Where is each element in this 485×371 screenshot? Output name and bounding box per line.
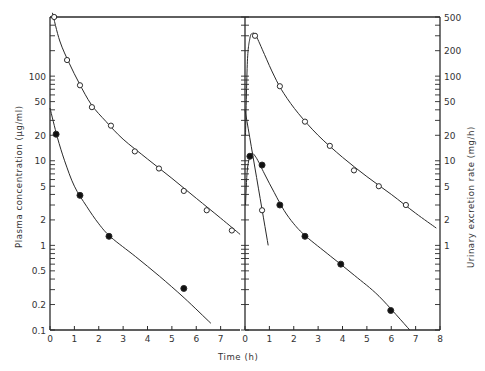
left-open-circles-point — [132, 149, 137, 154]
right-open-circles-point — [376, 184, 381, 189]
right-filled-circles-point — [302, 233, 308, 239]
left-open-circles-point — [77, 83, 82, 88]
left-open-circles-point — [64, 57, 69, 62]
right-open-circles-point — [327, 143, 332, 148]
left-filled-circles-fit-curve — [50, 108, 211, 323]
right-filled-circles-point — [277, 202, 283, 208]
right-y-tick-label: 20 — [444, 131, 456, 141]
right-y-tick-label: 1 — [444, 241, 450, 251]
left-filled-circles-point — [77, 192, 83, 198]
right-y-tick-label: 5 — [444, 182, 450, 192]
right-y-axis-title: Urinary excretion rate (mg/h) — [466, 126, 476, 268]
right-y-tick-label: 10 — [444, 156, 456, 166]
left-filled-circles-point — [181, 285, 187, 291]
left-y-tick-label: 0.1 — [32, 326, 46, 336]
left-filled-circles-point — [106, 233, 112, 239]
left-x-tick-label: 5 — [169, 334, 175, 344]
right-open-circles-point — [277, 84, 282, 89]
left-x-tick-label: 0 — [47, 334, 53, 344]
left-x-tick-label: 6 — [193, 334, 199, 344]
right-y-tick-label: 500 — [444, 13, 461, 23]
right-y-tick-label: 200 — [444, 46, 461, 56]
left-x-tick-label: 2 — [96, 334, 102, 344]
left-filled-circles-point — [53, 131, 59, 137]
left-x-tick-label: 1 — [72, 334, 78, 344]
left-y-tick-label: 5 — [40, 182, 46, 192]
right-open-small-point — [259, 208, 264, 213]
left-y-tick-label: 100 — [29, 72, 46, 82]
left-y-tick-label: 0.5 — [32, 266, 46, 276]
left-open-circles-point — [229, 228, 234, 233]
right-x-tick-label: 1 — [267, 334, 273, 344]
left-y-tick-label: 0.2 — [32, 300, 46, 310]
right-x-tick-label: 0 — [242, 334, 248, 344]
right-filled-circles-point — [247, 153, 253, 159]
left-y-tick-label: 50 — [35, 97, 47, 107]
right-filled-circles-point — [338, 261, 344, 267]
left-open-circles-point — [108, 123, 113, 128]
left-open-circles-point — [89, 105, 94, 110]
right-open-circles-point — [252, 33, 257, 38]
right-filled-circles-point — [259, 162, 265, 168]
left-open-circles-point — [204, 208, 209, 213]
left-open-circles-fit-curve — [52, 13, 240, 235]
right-x-tick-label: 2 — [291, 334, 297, 344]
left-y-tick-label: 2 — [40, 215, 46, 225]
right-x-tick-label: 4 — [340, 334, 346, 344]
right-filled-circles-fit-curve — [246, 153, 410, 330]
left-y-axis-title: Plasma concentration (µg/ml) — [14, 105, 24, 248]
left-x-tick-label: 7 — [218, 334, 224, 344]
left-open-circles-point — [181, 188, 186, 193]
right-open-small-fit-curve — [245, 110, 268, 246]
right-open-circles-point — [351, 168, 356, 173]
right-open-circles-point — [302, 119, 307, 124]
left-y-tick-label: 20 — [35, 131, 47, 141]
left-x-tick-label: 4 — [145, 334, 151, 344]
x-axis-title: Time (h) — [217, 352, 258, 362]
left-y-tick-label: 1 — [40, 241, 46, 251]
left-open-circles-point — [156, 166, 161, 171]
right-x-tick-label: 5 — [364, 334, 370, 344]
left-open-circles-point — [52, 14, 57, 19]
left-y-tick-label: 10 — [35, 156, 47, 166]
right-x-tick-label: 3 — [315, 334, 321, 344]
right-x-tick-label: 6 — [388, 334, 394, 344]
left-x-tick-label: 3 — [120, 334, 126, 344]
right-y-tick-label: 100 — [444, 72, 461, 82]
fit-curves — [50, 13, 436, 330]
right-filled-circles-point — [388, 307, 394, 313]
right-open-circles-point — [403, 202, 408, 207]
right-y-tick-label: 2 — [444, 215, 450, 225]
chart: 012345670.10.20.512510205010001234567812… — [0, 0, 485, 371]
right-x-tick-label: 7 — [413, 334, 419, 344]
data-points — [52, 14, 409, 313]
right-open-circles-fit-curve — [246, 33, 437, 228]
right-y-tick-label: 50 — [444, 97, 456, 107]
right-x-tick-label: 8 — [437, 334, 443, 344]
